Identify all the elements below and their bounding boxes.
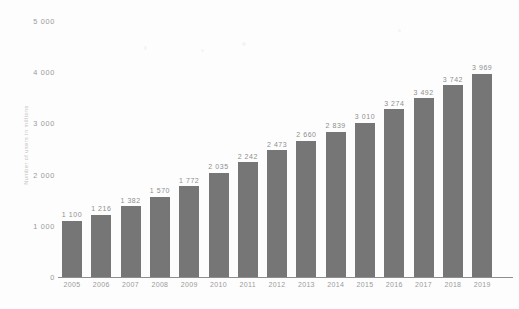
bar-value-label: 1 100 [62, 211, 82, 218]
x-axis-tick-label: 2010 [204, 281, 234, 288]
x-axis-tick-label: 2013 [291, 281, 321, 288]
bar-rect [296, 141, 316, 277]
bar-chart: Number of users in millions 01 0002 0003… [0, 0, 519, 309]
bar[interactable]: 1 382 [121, 21, 141, 277]
bar[interactable]: 1 570 [150, 21, 170, 277]
y-axis-ticks: 01 0002 0003 0004 0005 000 [0, 21, 55, 277]
bar[interactable]: 2 839 [326, 21, 346, 277]
bar-rect [91, 215, 111, 277]
bar-rect [121, 206, 141, 277]
bar-value-label: 3 969 [472, 64, 492, 71]
bar-value-label: 2 242 [238, 153, 258, 160]
y-axis-tick-label: 0 [50, 273, 55, 282]
bar-rect [62, 221, 82, 277]
bar-value-label: 2 035 [208, 163, 228, 170]
y-axis-tick-label: 5 000 [33, 17, 55, 26]
bar-value-label: 3 010 [355, 113, 375, 120]
bar[interactable]: 1 100 [62, 21, 82, 277]
bar[interactable]: 2 660 [296, 21, 316, 277]
bar-rect [414, 98, 434, 277]
bar[interactable]: 2 473 [267, 21, 287, 277]
bar[interactable]: 3 492 [414, 21, 434, 277]
bar-rect [472, 74, 492, 277]
bar[interactable]: 1 772 [179, 21, 199, 277]
y-axis-tick-label: 1 000 [33, 221, 55, 230]
x-axis-tick-label: 2009 [174, 281, 204, 288]
x-axis-tick-label: 2018 [438, 281, 468, 288]
bar-value-label: 3 492 [413, 89, 433, 96]
bar-rect [443, 85, 463, 277]
y-axis-tick-label: 2 000 [33, 170, 55, 179]
x-axis-tick-label: 2006 [86, 281, 116, 288]
bar-value-label: 1 216 [91, 205, 111, 212]
x-axis-tick-label: 2015 [350, 281, 380, 288]
x-axis-tick-label: 2011 [233, 281, 263, 288]
bar-rect [355, 123, 375, 277]
plot-area: 1 1001 2161 3821 5701 7722 0352 2422 473… [62, 21, 511, 277]
x-axis-tick-label: 2019 [467, 281, 497, 288]
bar-value-label: 2 660 [296, 131, 316, 138]
bar-value-label: 2 839 [326, 122, 346, 129]
bar-value-label: 1 570 [150, 187, 170, 194]
x-axis-line [58, 277, 513, 278]
bar-rect [209, 173, 229, 277]
y-axis-tick-label: 3 000 [33, 119, 55, 128]
x-axis-tick-label: 2016 [379, 281, 409, 288]
bar-rect [267, 150, 287, 277]
bar-rect [179, 186, 199, 277]
x-axis-tick-label: 2012 [262, 281, 292, 288]
bar[interactable]: 3 969 [472, 21, 492, 277]
bar[interactable]: 1 216 [91, 21, 111, 277]
bar-rect [326, 132, 346, 277]
y-axis-tick-label: 4 000 [33, 68, 55, 77]
bar-rect [150, 197, 170, 277]
bar-value-label: 2 473 [267, 141, 287, 148]
bar-value-label: 1 382 [120, 197, 140, 204]
bar-rect [238, 162, 258, 277]
bar[interactable]: 3 274 [384, 21, 404, 277]
bar[interactable]: 3 742 [443, 21, 463, 277]
x-axis-tick-label: 2008 [145, 281, 175, 288]
bar-value-label: 3 742 [443, 76, 463, 83]
x-axis-tick-label: 2005 [57, 281, 87, 288]
x-axis-tick-label: 2014 [321, 281, 351, 288]
bar-value-label: 3 274 [384, 100, 404, 107]
bar-rect [384, 109, 404, 277]
bar-value-label: 1 772 [179, 177, 199, 184]
bar[interactable]: 2 242 [238, 21, 258, 277]
bar[interactable]: 3 010 [355, 21, 375, 277]
x-axis-tick-label: 2007 [116, 281, 146, 288]
bar[interactable]: 2 035 [209, 21, 229, 277]
x-axis-tick-label: 2017 [409, 281, 439, 288]
